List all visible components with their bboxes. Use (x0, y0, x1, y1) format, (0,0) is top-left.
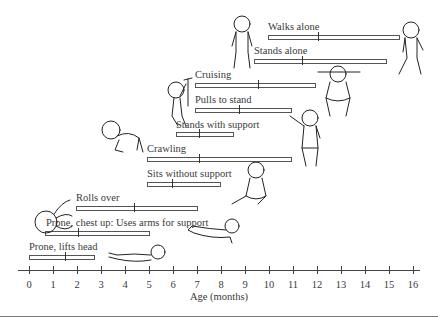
median-marker (65, 252, 66, 261)
x-tick-label: 11 (288, 279, 298, 290)
infant-walking-alone-illustration (395, 20, 429, 76)
x-tick-label: 2 (74, 279, 79, 290)
x-tick (413, 266, 414, 274)
milestone-range-bar (147, 182, 221, 187)
x-tick-label: 5 (146, 279, 151, 290)
milestone-label: Rolls over (76, 193, 119, 204)
x-tick (245, 266, 246, 274)
motor-milestones-chart: Walks alone Stands alone Cruising Pulls … (0, 0, 438, 320)
x-tick (269, 266, 270, 274)
x-tick-label: 0 (26, 279, 31, 290)
infant-prone-chest-up-illustration (186, 217, 242, 245)
milestone-label: Stands alone (254, 46, 307, 57)
median-marker (172, 179, 173, 188)
milestone-range-bar (176, 132, 234, 137)
milestone-label: Sits without support (147, 169, 232, 180)
milestone-label: Crawling (147, 144, 186, 155)
x-tick (101, 266, 102, 274)
x-axis-line (18, 270, 420, 271)
x-tick (389, 266, 390, 274)
x-tick-label: 10 (264, 279, 275, 290)
milestone-label: Pulls to stand (195, 95, 252, 106)
x-tick-label: 4 (122, 279, 127, 290)
median-marker (199, 154, 200, 163)
milestone-label: Prone, lifts head (29, 242, 98, 253)
infant-standing-alone-illustration (228, 14, 258, 70)
x-tick (53, 266, 54, 274)
x-tick (29, 266, 30, 274)
x-tick-label: 16 (408, 279, 419, 290)
x-tick-label: 6 (170, 279, 175, 290)
x-tick-label: 14 (360, 279, 371, 290)
milestone-range-bar (268, 35, 400, 40)
x-tick-label: 15 (384, 279, 395, 290)
median-marker (199, 129, 200, 138)
x-tick-label: 7 (194, 279, 199, 290)
x-axis-title: Age (months) (0, 291, 438, 302)
x-tick-label: 1 (50, 279, 55, 290)
x-tick-label: 8 (218, 279, 223, 290)
x-tick (293, 266, 294, 274)
infant-pulling-to-stand-illustration (166, 76, 196, 128)
x-tick-label: 3 (98, 279, 103, 290)
bottom-divider (0, 316, 438, 317)
median-marker (302, 56, 303, 65)
x-tick (341, 266, 342, 274)
x-tick (365, 266, 366, 274)
median-marker (239, 105, 240, 114)
x-tick (221, 266, 222, 274)
infant-sitting-illustration (228, 160, 274, 212)
median-marker (258, 80, 259, 89)
milestone-range-bar (76, 206, 198, 211)
milestone-range-bar (29, 255, 95, 260)
median-marker (134, 203, 135, 212)
x-tick (77, 266, 78, 274)
x-tick-label: 12 (312, 279, 323, 290)
x-tick-label: 9 (242, 279, 247, 290)
median-marker (78, 228, 79, 237)
milestone-label: Cruising (195, 70, 231, 81)
milestone-label: Walks alone (268, 22, 319, 33)
infant-rolling-over-illustration (32, 196, 74, 236)
infant-cruising-illustration (316, 64, 362, 120)
x-tick (197, 266, 198, 274)
milestone-range-bar (195, 83, 316, 88)
infant-crawling-illustration (97, 116, 145, 156)
x-tick-label: 13 (336, 279, 347, 290)
x-tick (173, 266, 174, 274)
x-tick (317, 266, 318, 274)
median-marker (318, 32, 319, 41)
milestone-range-bar (195, 108, 292, 113)
infant-prone-lifting-head-illustration (105, 243, 167, 269)
